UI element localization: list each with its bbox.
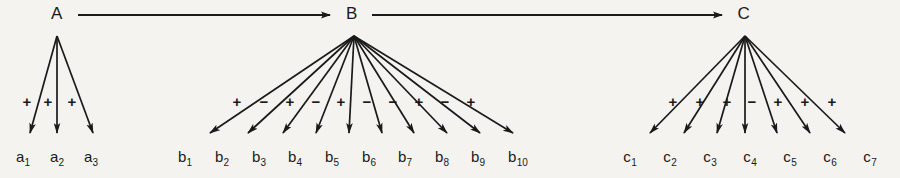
edge-sign-c-c3: + — [723, 94, 732, 109]
edge-arrow-c-c2 — [684, 36, 745, 133]
edge-sign-c-c4: − — [748, 94, 757, 109]
leaf-label-b8: b8 — [435, 148, 449, 168]
leaf-label-c5: c5 — [783, 148, 796, 168]
edge-arrow-b-b7 — [354, 36, 414, 133]
leaf-label-a3: a3 — [84, 148, 98, 168]
fan-arrow-layer — [30, 36, 845, 133]
edge-sign-a-a2: + — [44, 94, 53, 109]
edge-sign-b-b9: − — [441, 94, 450, 109]
edge-sign-c-c5: + — [774, 94, 783, 109]
leaf-label-a1: a1 — [16, 148, 30, 168]
leaf-label-c1: c1 — [623, 148, 636, 168]
edge-arrow-b-b4 — [316, 36, 354, 133]
leaf-label-b2: b2 — [215, 148, 229, 168]
leaf-label-b6: b6 — [362, 148, 376, 168]
edge-sign-b-b5: + — [337, 94, 346, 109]
leaf-label-c7: c7 — [863, 148, 876, 168]
leaf-label-b10: b10 — [508, 148, 528, 168]
edge-arrow-a-a3 — [57, 36, 93, 133]
edge-sign-c-c2: + — [696, 94, 705, 109]
edge-arrow-b-b3 — [283, 36, 354, 133]
edge-sign-b-b8: + — [415, 94, 424, 109]
edge-sign-b-b1: + — [233, 94, 242, 109]
node-label-b: B — [346, 4, 358, 24]
edge-arrow-c-c7 — [745, 36, 845, 133]
node-label-c: C — [738, 4, 751, 24]
leaf-label-a2: a2 — [50, 148, 64, 168]
edge-sign-b-b2: − — [260, 94, 269, 109]
edge-arrow-b-b9 — [354, 36, 480, 133]
leaf-label-b4: b4 — [288, 148, 302, 168]
leaf-label-b3: b3 — [252, 148, 266, 168]
leaf-label-c4: c4 — [743, 148, 756, 168]
edge-sign-b-b4: − — [312, 94, 321, 109]
leaf-label-c2: c2 — [663, 148, 676, 168]
edge-sign-a-a1: + — [23, 94, 32, 109]
diagram-canvas — [0, 0, 900, 178]
leaf-label-c6: c6 — [823, 148, 836, 168]
causal-hierarchy-diagram: ABC+a1+a2+a3+b1−b2+b3−b4+b5−b6−b7+b8−b9+… — [0, 0, 900, 178]
leaf-label-b5: b5 — [325, 148, 339, 168]
leaf-label-b9: b9 — [471, 148, 485, 168]
edge-sign-b-b7: − — [389, 94, 398, 109]
leaf-label-b7: b7 — [398, 148, 412, 168]
edge-sign-c-c6: + — [801, 94, 810, 109]
edge-arrow-b-b1 — [210, 36, 354, 133]
edge-sign-c-c1: + — [669, 94, 678, 109]
leaf-label-c3: c3 — [703, 148, 716, 168]
edge-sign-b-b6: − — [363, 94, 372, 109]
edge-sign-a-a3: + — [68, 94, 77, 109]
node-label-a: A — [51, 4, 63, 24]
edge-arrow-b-b5 — [349, 36, 354, 133]
edge-arrow-c-c6 — [745, 36, 810, 133]
edge-sign-c-c7: + — [828, 94, 837, 109]
edge-arrow-b-b2 — [248, 36, 354, 133]
edge-sign-b-b10: + — [467, 94, 476, 109]
edge-sign-b-b3: + — [286, 94, 295, 109]
edge-arrow-a-a1 — [30, 36, 57, 133]
leaf-label-b1: b1 — [178, 148, 192, 168]
